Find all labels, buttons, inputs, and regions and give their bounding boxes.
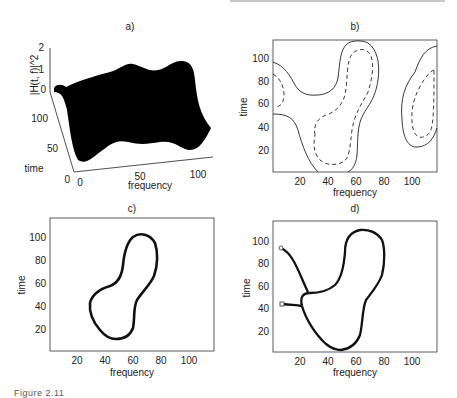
x-tick: 60 (350, 356, 362, 367)
y-tick: 20 (35, 324, 47, 335)
surface-fill (54, 61, 211, 162)
z-axis-label: |H(t, f)|^2 (29, 54, 40, 95)
panel-d: d) 20 40 60 80 100 20 40 60 80 100 frequ… (241, 203, 437, 378)
x-tick: 40 (322, 176, 334, 187)
x-tick: 100 (404, 176, 421, 187)
panel-b-title: b) (351, 21, 360, 32)
time-axis-label: time (25, 163, 44, 174)
y-tick: 80 (258, 258, 270, 269)
y-tick: 40 (258, 122, 270, 133)
z-tick-0: 0 (40, 84, 46, 95)
panel-a: a) 2 1 0 |H(t, f)|^2 100 50 0 time 0 50 … (25, 21, 213, 191)
panel-c: c) 20 40 60 80 100 20 40 60 80 100 frequ… (16, 203, 214, 378)
x-tick: 80 (378, 356, 390, 367)
time-tick-0: 0 (64, 174, 70, 185)
lower-branch-d (283, 304, 302, 306)
time-tick-100: 100 (31, 113, 48, 124)
x-tick: 80 (155, 355, 167, 366)
plot-area-d (273, 221, 437, 352)
y-tick: 100 (252, 236, 269, 247)
y-tick: 100 (252, 53, 269, 64)
y-tick: 20 (258, 326, 270, 337)
x-tick: 40 (322, 356, 334, 367)
y-tick: 80 (35, 255, 47, 266)
freq-tick-100: 100 (190, 169, 207, 180)
x-axis-label-d: frequency (333, 367, 377, 378)
y-axis-label-d: time (241, 278, 252, 297)
plot-area-b (273, 40, 437, 172)
y-tick: 20 (258, 145, 270, 156)
endpoint-marker (280, 302, 284, 306)
curves-d (281, 230, 384, 350)
panel-a-title: a) (126, 21, 135, 32)
x-tick: 60 (350, 176, 362, 187)
figure-caption: Figure 2.11 (14, 388, 64, 398)
y-axis-label-c: time (16, 275, 27, 294)
y-tick: 40 (258, 303, 270, 314)
x-axis-label-c: frequency (110, 367, 154, 378)
x-tick: 20 (71, 355, 83, 366)
x-tick: 20 (294, 356, 306, 367)
panel-d-title: d) (351, 203, 360, 214)
y-tick: 60 (258, 98, 270, 109)
x-tick: 80 (378, 176, 390, 187)
x-tick: 60 (127, 355, 139, 366)
y-tick: 60 (258, 281, 270, 292)
figure-canvas: a) 2 1 0 |H(t, f)|^2 100 50 0 time 0 50 … (0, 0, 457, 398)
x-tick: 20 (294, 176, 306, 187)
closed-curve-c (90, 234, 157, 339)
freq-tick-0: 0 (77, 177, 83, 188)
y-tick: 80 (258, 76, 270, 87)
upper-branch-d (281, 248, 308, 292)
y-axis-label-b: time (238, 97, 249, 116)
freq-axis-label: frequency (128, 180, 172, 191)
y-tick: 40 (35, 301, 47, 312)
y-tick: 100 (29, 232, 46, 243)
x-tick: 100 (181, 355, 198, 366)
y-tick: 60 (35, 278, 47, 289)
dashed-contours (273, 50, 434, 165)
x-tick: 40 (99, 355, 111, 366)
x-tick: 100 (404, 356, 421, 367)
z-tick-2: 2 (38, 42, 44, 53)
panel-b: b) 20 40 60 80 100 20 40 60 80 100 frequ… (238, 21, 437, 198)
time-tick-50: 50 (47, 143, 59, 154)
endpoint-marker (279, 246, 283, 250)
closed-curve-d (301, 230, 384, 350)
panel-c-title: c) (128, 203, 136, 214)
x-axis-label-b: frequency (333, 187, 377, 198)
